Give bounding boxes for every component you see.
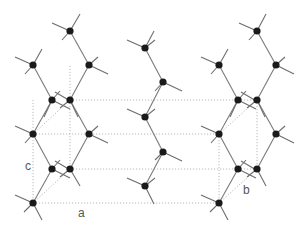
atom — [48, 165, 55, 172]
atom — [159, 148, 166, 155]
atom — [66, 165, 73, 172]
axis-label-b: b — [243, 184, 250, 196]
bond-stubs — [15, 14, 294, 220]
atom — [234, 165, 241, 172]
atom — [141, 113, 148, 120]
atom — [85, 130, 92, 137]
atom — [253, 27, 260, 34]
axis-label-a: a — [78, 207, 85, 219]
atom — [66, 96, 73, 103]
atom — [215, 61, 222, 68]
axis-label-c: c — [25, 160, 31, 172]
atom — [272, 61, 279, 68]
atom — [141, 44, 148, 51]
atom — [141, 182, 148, 189]
atom — [29, 61, 36, 68]
atom — [159, 78, 166, 85]
crystal-structure-diagram — [0, 0, 307, 230]
atom — [29, 199, 36, 206]
atom — [85, 61, 92, 68]
atom — [215, 199, 222, 206]
atom — [29, 130, 36, 137]
atom — [48, 96, 55, 103]
unit-cell — [33, 65, 257, 203]
atom — [253, 96, 260, 103]
atom — [234, 96, 241, 103]
atom — [272, 130, 279, 137]
atom — [215, 130, 222, 137]
atom — [66, 27, 73, 34]
atoms — [29, 27, 279, 206]
atom — [253, 165, 260, 172]
